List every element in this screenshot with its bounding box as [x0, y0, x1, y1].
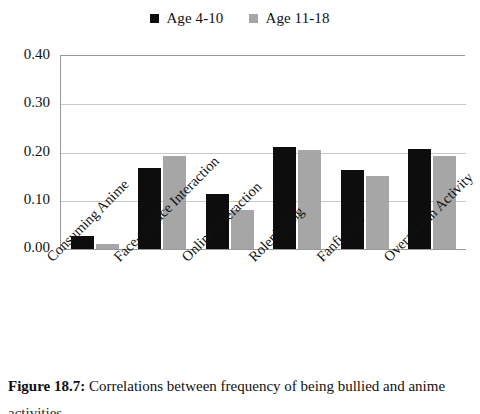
legend-item-age-4-10: Age 4-10: [150, 11, 223, 26]
figure-caption: Figure 18.7: Correlations between freque…: [8, 377, 474, 396]
legend-swatch-age-11-18: [249, 14, 258, 23]
y-tick-label: 0.40: [24, 47, 50, 62]
figure-caption-line2: activities: [8, 404, 474, 414]
legend-label-age-4-10: Age 4-10: [166, 11, 223, 26]
bar-series-container: [61, 56, 466, 249]
y-tick-label: 0.10: [24, 192, 50, 207]
figure-number: Figure 18.7:: [8, 378, 85, 394]
plot-area: [60, 55, 465, 248]
y-tick-label: 0.20: [24, 144, 50, 159]
figure-container: Age 4-10 Age 11-18 0.000.100.200.300.40 …: [0, 0, 480, 414]
legend-label-age-11-18: Age 11-18: [265, 11, 329, 26]
x-axis-category-labels: Consuming AnimeFace-to-Face InteractionO…: [0, 248, 480, 368]
legend-swatch-age-4-10: [150, 14, 159, 23]
chart-legend: Age 4-10 Age 11-18: [0, 11, 480, 26]
figure-caption-text: Correlations between frequency of being …: [85, 378, 445, 394]
bar: [298, 150, 321, 249]
legend-item-age-11-18: Age 11-18: [249, 11, 329, 26]
bar: [366, 176, 389, 249]
y-tick-label: 0.30: [24, 95, 50, 110]
